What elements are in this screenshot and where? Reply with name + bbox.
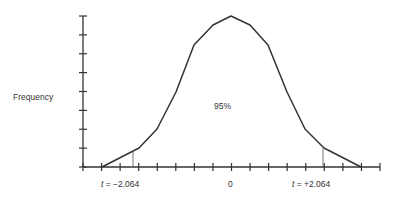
t-distribution-chart	[0, 0, 396, 197]
right-critical-label: t = +2.064	[292, 179, 330, 189]
left-critical-value: = −2.064	[103, 179, 139, 189]
critical-value-markers	[133, 149, 323, 168]
distribution-curve	[102, 16, 361, 167]
right-critical-value: = +2.064	[294, 179, 330, 189]
y-axis-label: Frequency	[13, 92, 53, 102]
zero-label: 0	[228, 179, 233, 189]
left-critical-label: t = −2.064	[101, 179, 139, 189]
area-annotation: 95%	[214, 101, 231, 111]
axes	[83, 16, 380, 167]
